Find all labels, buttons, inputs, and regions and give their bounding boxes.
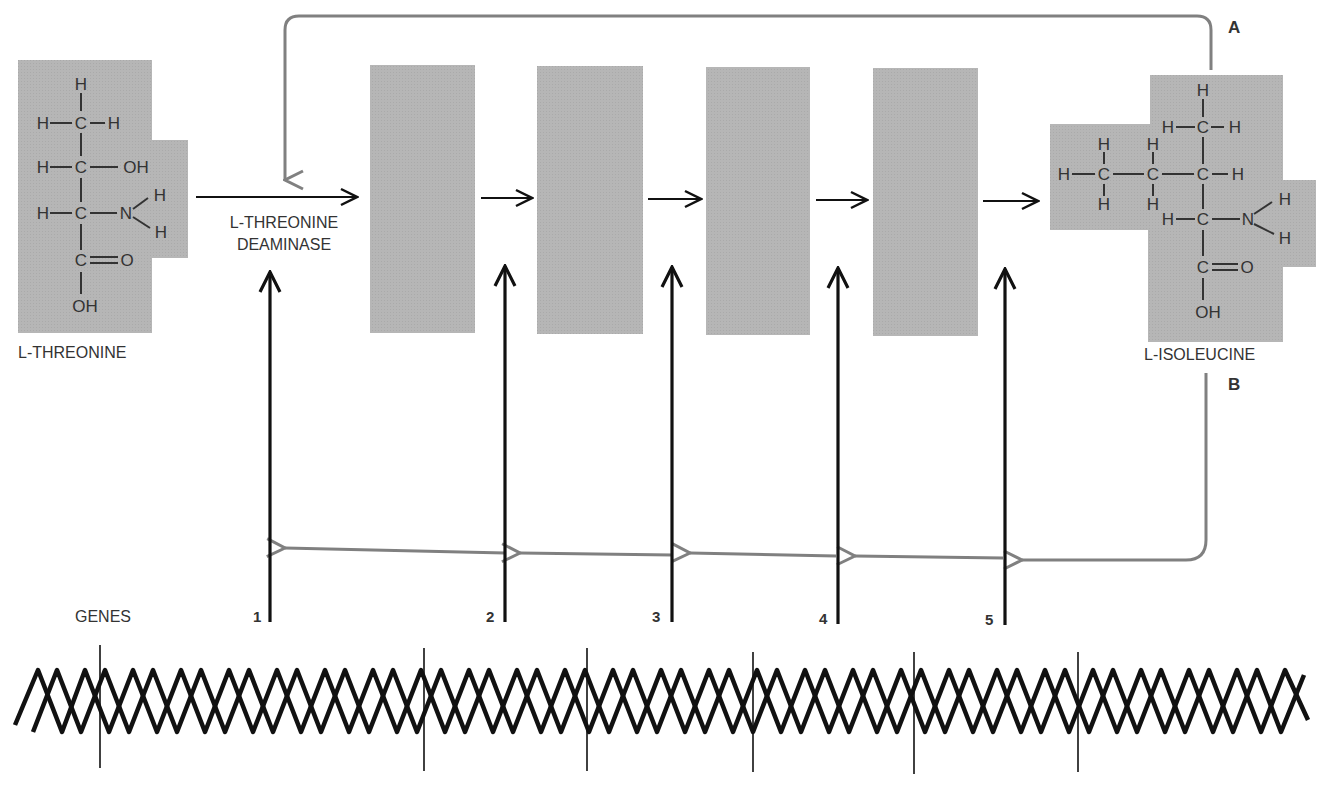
atom-label: N xyxy=(120,204,132,223)
repression-arrow-2-1 xyxy=(285,548,505,553)
atom-label: H xyxy=(1098,135,1110,154)
threonine-molecule: H H C H H C OH H C N H H C O OH xyxy=(18,60,188,333)
atom-label: H xyxy=(1279,229,1291,248)
atom-label: N xyxy=(1242,210,1254,229)
atom-label: H xyxy=(37,204,49,223)
atom-label: H xyxy=(155,223,167,242)
isoleucine-molecule: H H C H H H H C C C H H H H C N H H C O … xyxy=(1050,75,1316,342)
atom-label: H xyxy=(1279,190,1291,209)
gene-number-2: 2 xyxy=(486,608,494,625)
atom-label: C xyxy=(1197,165,1209,184)
atom-label: H xyxy=(1058,165,1070,184)
atom-label: O xyxy=(1240,258,1253,277)
isoleucine-panel xyxy=(1050,75,1316,342)
enzyme-label-line1: L-THREONINE xyxy=(230,214,338,231)
dna-double-helix xyxy=(15,670,1308,732)
product-label: L-ISOLEUCINE xyxy=(1144,346,1255,363)
feedback-repression-arrow-b xyxy=(1022,373,1206,560)
atom-label: OH xyxy=(1195,303,1221,322)
intermediate-box-1 xyxy=(370,65,475,333)
genes-label: GENES xyxy=(75,608,131,625)
gene-number-5: 5 xyxy=(985,611,993,628)
gene-number-3: 3 xyxy=(652,608,660,625)
atom-label: C xyxy=(75,114,87,133)
atom-label: H xyxy=(1098,195,1110,214)
gene-number-1: 1 xyxy=(253,608,261,625)
atom-label: H xyxy=(154,186,166,205)
isoleucine-pathway-diagram: H H C H H C OH H C N H H C O OH L-THREON… xyxy=(0,0,1334,792)
gene-number-4: 4 xyxy=(819,610,828,627)
atom-label: H xyxy=(1147,195,1159,214)
enzyme-label-line2: DEAMINASE xyxy=(237,236,331,253)
atom-label: H xyxy=(1197,81,1209,100)
atom-label: H xyxy=(75,75,87,94)
atom-label: C xyxy=(1098,165,1110,184)
atom-label: C xyxy=(75,251,87,270)
atom-label: H xyxy=(1162,118,1174,137)
feedback-label-a: A xyxy=(1228,18,1240,37)
atom-label: OH xyxy=(123,158,149,177)
repression-arrow-4-3 xyxy=(690,553,836,556)
atom-label: H xyxy=(37,158,49,177)
feedback-label-b: B xyxy=(1228,375,1240,394)
repression-arrow-5-4 xyxy=(855,556,1003,558)
atom-label: H xyxy=(1147,135,1159,154)
substrate-label: L-THREONINE xyxy=(18,344,126,361)
atom-label: OH xyxy=(72,297,98,316)
atom-label: C xyxy=(1147,165,1159,184)
intermediate-box-2 xyxy=(537,66,643,334)
atom-label: O xyxy=(120,251,133,270)
atom-label: C xyxy=(75,158,87,177)
atom-label: C xyxy=(1197,118,1209,137)
atom-label: H xyxy=(1232,165,1244,184)
atom-label: H xyxy=(1229,118,1241,137)
intermediate-box-3 xyxy=(706,67,810,335)
repression-arrow-3-2 xyxy=(520,553,672,555)
atom-label: H xyxy=(1162,210,1174,229)
atom-label: C xyxy=(1197,210,1209,229)
intermediate-box-4 xyxy=(873,68,978,336)
atom-label: H xyxy=(37,114,49,133)
atom-label: H xyxy=(108,114,120,133)
atom-label: C xyxy=(75,204,87,223)
atom-label: C xyxy=(1197,258,1209,277)
